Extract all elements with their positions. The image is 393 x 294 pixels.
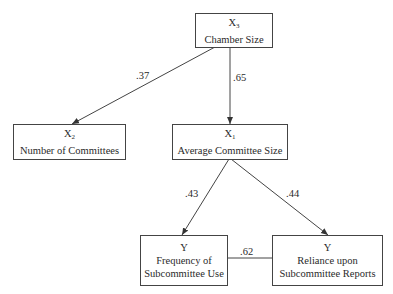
coef-x3-x1: .65 (233, 72, 246, 83)
coef-x3-x2: .37 (136, 70, 149, 81)
node-y-frequency-subcommittee-use: Y Frequency of Subcommittee Use (140, 235, 228, 286)
coef-x1-yfreq: .43 (185, 188, 198, 199)
node-label-line1: Frequency of (156, 254, 212, 267)
edge-x1-yrel (231, 159, 328, 235)
node-label-line1: Reliance upon (297, 254, 357, 267)
node-var: Y (324, 241, 332, 254)
coef-yfreq-yrel: .62 (240, 246, 253, 257)
node-var: X2 (64, 127, 75, 144)
node-label-line2: Subcommittee Reports (280, 267, 376, 280)
node-x3-chamber-size: X3 Chamber Size (195, 13, 273, 48)
node-label: Chamber Size (204, 33, 263, 46)
node-x1-average-committee-size: X1 Average Committee Size (172, 124, 288, 160)
node-y-reliance-subcommittee-reports: Y Reliance upon Subcommittee Reports (272, 235, 383, 286)
node-var: X1 (224, 127, 235, 144)
node-var: X3 (228, 16, 239, 33)
edge-x3-x2 (72, 47, 215, 124)
node-var: Y (180, 241, 188, 254)
node-label: Average Committee Size (178, 144, 283, 157)
node-label: Number of Committees (20, 144, 119, 157)
node-label-line2: Subcommittee Use (144, 267, 224, 280)
node-x2-number-of-committees: X2 Number of Committees (13, 124, 126, 160)
coef-x1-yrel: .44 (286, 188, 299, 199)
